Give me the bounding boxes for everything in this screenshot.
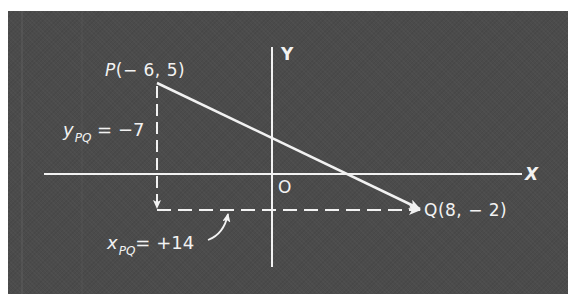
x-component-value: = +14	[135, 232, 194, 253]
y-component-var: y	[63, 119, 74, 140]
origin-label: O	[278, 179, 292, 196]
x-component-label: xPQ= +14	[107, 234, 194, 257]
point-q-name: Q	[424, 200, 438, 220]
y-component-value: = −7	[97, 119, 144, 140]
x-component-pointer-arrow	[208, 214, 228, 240]
point-p-label: P(− 6, 5)	[105, 62, 185, 79]
point-p-coords: (− 6, 5)	[116, 60, 185, 80]
y-component-label: yPQ = −7	[63, 121, 144, 144]
x-axis-label: X	[525, 166, 538, 183]
point-p-name: P	[105, 60, 116, 80]
x-component-sub: PQ	[119, 244, 136, 258]
point-q-label: Q(8, − 2)	[424, 202, 507, 219]
y-component-sub: PQ	[75, 131, 92, 145]
y-axis-label: Y	[281, 46, 293, 63]
point-q-coords: (8, − 2)	[438, 200, 507, 220]
x-component-var: x	[107, 232, 118, 253]
